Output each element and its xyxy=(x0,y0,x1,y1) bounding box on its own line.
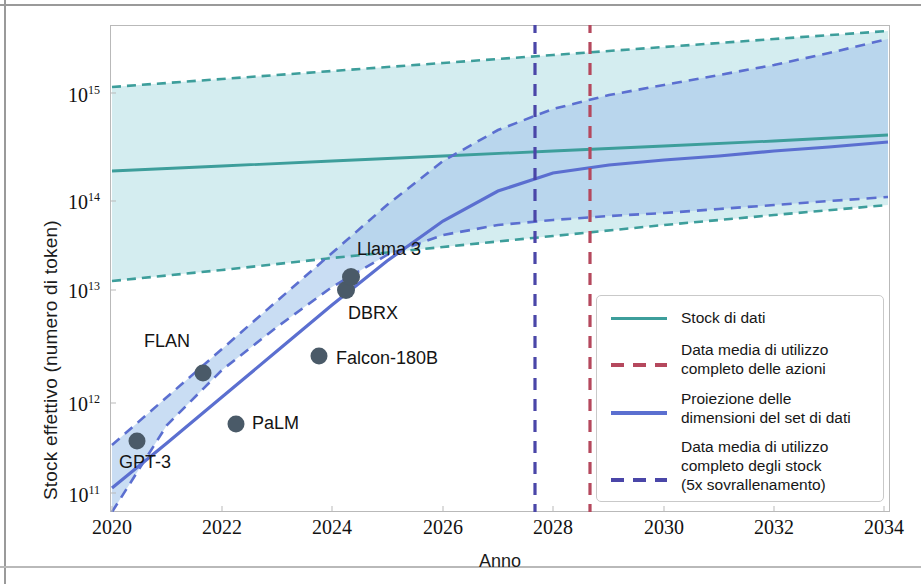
y-tick-exp: 15 xyxy=(88,83,100,97)
legend-label-azioni-line2: completo delle azioni xyxy=(681,359,828,378)
y-axis-title: Stock effettivo (numero di token) xyxy=(40,80,62,500)
legend-label-stock-5x-line2: completo degli stock xyxy=(681,456,828,475)
point-label-llama3: Llama 3 xyxy=(357,239,421,260)
y-tick-1e12: 1012 xyxy=(68,392,100,416)
legend-swatch-solid-blue xyxy=(611,401,667,415)
legend-label-stock-5x: Data media di utilizzo completo degli st… xyxy=(681,437,828,494)
legend-item-azioni[interactable]: Data media di utilizzo completo delle az… xyxy=(611,340,873,378)
legend-label-stock-di-dati: Stock di dati xyxy=(681,308,765,327)
point-label-dbrx: DBRX xyxy=(348,303,398,324)
point-flan xyxy=(195,365,212,382)
point-label-palm: PaLM xyxy=(252,413,299,434)
x-tick-2022: 2022 xyxy=(202,516,242,539)
x-tick-2028: 2028 xyxy=(533,516,573,539)
legend-swatch-solid-teal xyxy=(611,311,667,325)
legend-label-azioni-line1: Data media di utilizzo xyxy=(681,340,828,359)
point-label-gpt3: GPT-3 xyxy=(119,452,171,473)
legend-swatch-dashed-purple xyxy=(611,459,667,473)
point-label-falcon: Falcon-180B xyxy=(336,348,438,369)
y-tick-1e14: 1014 xyxy=(68,190,100,214)
chart-legend: Stock di dati Data media di utilizzo com… xyxy=(596,295,884,502)
y-tick-1e13: 1013 xyxy=(68,279,100,303)
point-label-flan: FLAN xyxy=(144,331,190,352)
legend-label-azioni: Data media di utilizzo completo delle az… xyxy=(681,340,828,378)
chart-screenshot: 1015 1014 1013 1012 1011 Stock effettivo… xyxy=(0,0,921,584)
legend-item-stock-di-dati[interactable]: Stock di dati xyxy=(611,308,871,327)
y-tick-exp: 11 xyxy=(88,483,100,497)
legend-item-stock-5x[interactable]: Data media di utilizzo completo degli st… xyxy=(611,437,877,494)
point-llama3 xyxy=(342,268,360,286)
legend-label-proiezione: Proiezione delle dimensioni del set di d… xyxy=(681,389,851,427)
y-tick-exp: 12 xyxy=(88,392,100,406)
scan-border-top xyxy=(0,4,921,6)
x-tick-2030: 2030 xyxy=(644,516,684,539)
legend-label-stock-5x-line1: Data media di utilizzo xyxy=(681,437,828,456)
x-tick-2020: 2020 xyxy=(92,516,132,539)
point-palm xyxy=(228,416,245,433)
legend-label-proiezione-line2: dimensioni del set di dati xyxy=(681,408,851,427)
point-gpt3 xyxy=(129,433,146,450)
y-tick-1e11: 1011 xyxy=(68,483,100,507)
legend-item-proiezione[interactable]: Proiezione delle dimensioni del set di d… xyxy=(611,389,877,427)
x-tick-2032: 2032 xyxy=(754,516,794,539)
x-tick-2034: 2034 xyxy=(864,516,904,539)
x-axis-title: Anno xyxy=(110,551,890,572)
legend-label-stock-5x-line3: (5x sovrallenamento) xyxy=(681,475,828,494)
x-tick-2026: 2026 xyxy=(423,516,463,539)
y-tick-1e15: 1015 xyxy=(68,83,100,107)
legend-swatch-dashed-red xyxy=(611,352,667,366)
x-tick-2024: 2024 xyxy=(312,516,352,539)
legend-label-proiezione-line1: Proiezione delle xyxy=(681,389,851,408)
y-tick-exp: 13 xyxy=(88,279,100,293)
y-tick-exp: 14 xyxy=(88,190,100,204)
point-falcon xyxy=(311,348,328,365)
